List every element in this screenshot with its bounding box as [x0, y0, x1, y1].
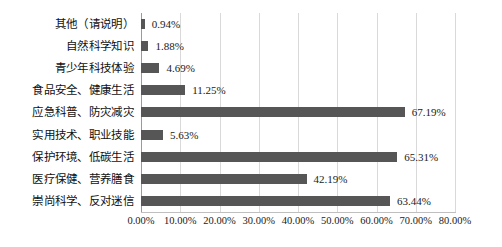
bar-value-label: 5.63%	[170, 124, 198, 146]
category-label: 保护环境、低碳生活	[0, 146, 134, 168]
category-label: 应急科普、防灾减灾	[0, 101, 134, 123]
bar[interactable]	[141, 130, 163, 140]
bar[interactable]	[141, 107, 405, 117]
bar-row: 食品安全、健康生活11.25%	[0, 79, 502, 101]
bar-value-label: 65.31%	[404, 146, 438, 168]
x-tick-label: 50.00%	[321, 215, 353, 226]
category-label: 实用技术、职业技能	[0, 124, 134, 146]
category-label: 自然科学知识	[0, 35, 134, 57]
bar[interactable]	[141, 174, 307, 184]
x-tick-label: 70.00%	[400, 215, 432, 226]
bar-value-label: 0.94%	[152, 13, 180, 35]
bar-row: 青少年科技体验4.69%	[0, 57, 502, 79]
bar[interactable]	[141, 19, 145, 29]
x-tick-label: 60.00%	[360, 215, 392, 226]
bar-row: 医疗保健、营养膳食42.19%	[0, 168, 502, 190]
bar[interactable]	[141, 41, 148, 51]
x-tick-label: 30.00%	[243, 215, 275, 226]
x-tick-label: 20.00%	[203, 215, 235, 226]
bar-row: 其他（请说明）0.94%	[0, 13, 502, 35]
category-label: 医疗保健、营养膳食	[0, 168, 134, 190]
bar-value-label: 63.44%	[397, 190, 431, 212]
x-tick-label: 0.00%	[127, 215, 154, 226]
bar-row: 崇尚科学、反对迷信63.44%	[0, 190, 502, 212]
x-axis-tick-labels: 0.00%10.00%20.00%30.00%40.00%50.00%60.00…	[0, 215, 502, 235]
category-label: 其他（请说明）	[0, 13, 134, 35]
x-axis-line	[141, 212, 456, 213]
bar-row: 自然科学知识1.88%	[0, 35, 502, 57]
bar-value-label: 4.69%	[166, 57, 194, 79]
x-tick-label: 40.00%	[282, 215, 314, 226]
bar-value-label: 11.25%	[192, 79, 226, 101]
category-label: 食品安全、健康生活	[0, 79, 134, 101]
bar[interactable]	[141, 63, 159, 73]
bar[interactable]	[141, 85, 185, 95]
x-tick-label: 10.00%	[164, 215, 196, 226]
x-tick-label: 80.00%	[439, 215, 471, 226]
bar-value-label: 1.88%	[155, 35, 183, 57]
bar-row: 应急科普、防灾减灾67.19%	[0, 101, 502, 123]
category-label: 青少年科技体验	[0, 57, 134, 79]
bar-value-label: 42.19%	[314, 168, 348, 190]
category-label: 崇尚科学、反对迷信	[0, 190, 134, 212]
bar-chart: 其他（请说明）0.94%自然科学知识1.88%青少年科技体验4.69%食品安全、…	[0, 0, 502, 247]
bar-row: 保护环境、低碳生活65.31%	[0, 146, 502, 168]
bar[interactable]	[141, 196, 390, 206]
bar[interactable]	[141, 152, 397, 162]
bar-row: 实用技术、职业技能5.63%	[0, 124, 502, 146]
bar-value-label: 67.19%	[412, 101, 446, 123]
